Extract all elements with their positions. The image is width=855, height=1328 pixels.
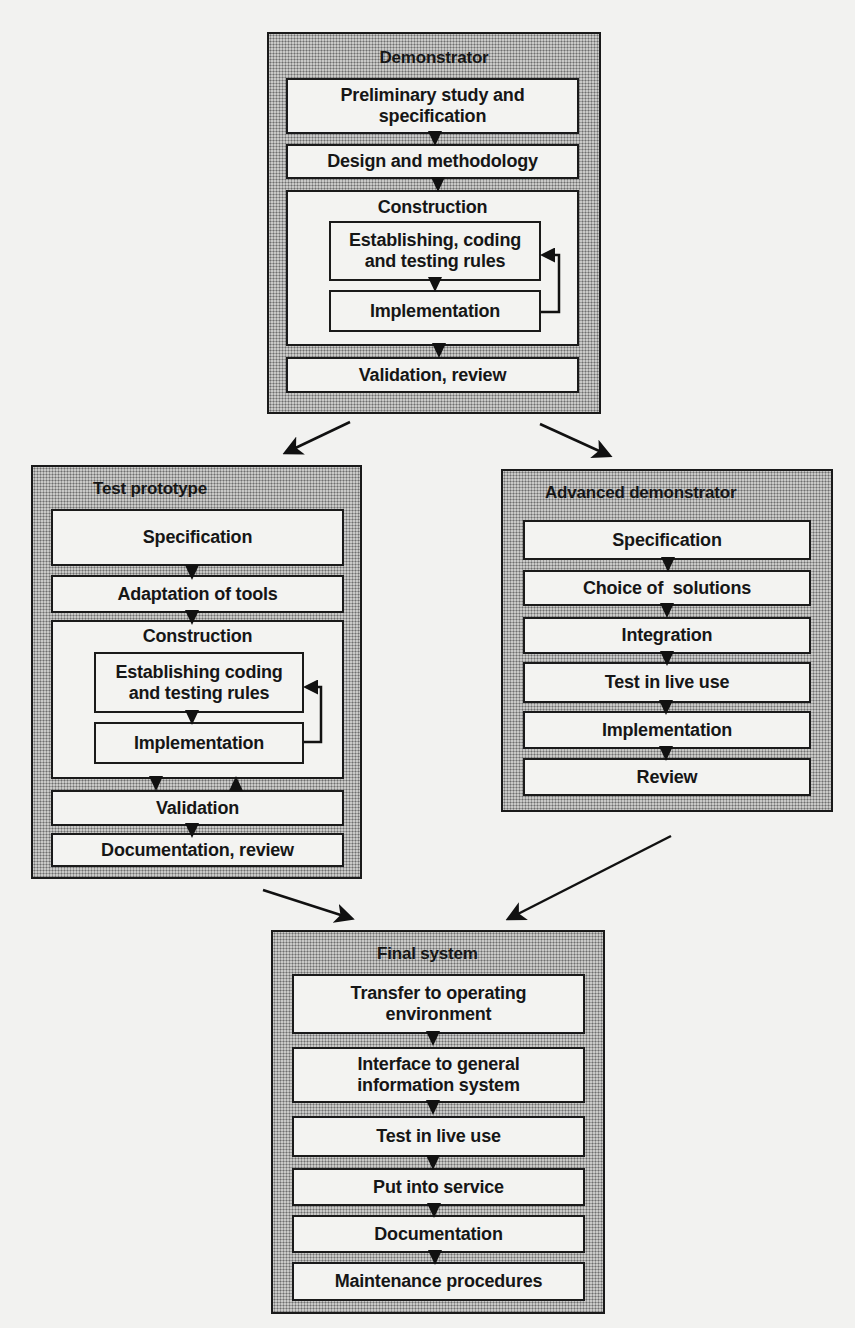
fs-step-maintenance: Maintenance procedures [292, 1262, 585, 1301]
ad-step-specification: Specification [523, 520, 811, 560]
arrow-up-icon [229, 776, 243, 791]
tp-step-documentation: Documentation, review [51, 833, 344, 867]
ad-step-test-live-use: Test in live use [523, 662, 811, 703]
arrow-down-icon [431, 177, 445, 192]
tp-substep-establishing: Establishing coding and testing rules [94, 652, 304, 713]
arrow-down-icon [185, 565, 199, 580]
arrow-down-icon [428, 131, 442, 146]
final-system-title: Final system [377, 944, 603, 964]
ad-step-integration: Integration [523, 617, 811, 654]
arrow-down-icon [432, 343, 446, 358]
test-prototype-title: Test prototype [93, 479, 360, 499]
demo-step-validation: Validation, review [286, 357, 579, 393]
arrow-down-icon [427, 1203, 441, 1218]
arrow-down-icon [660, 651, 674, 666]
tp-substep-implementation: Implementation [94, 722, 304, 764]
arrow-down-icon [659, 700, 673, 715]
demo-substep-establishing: Establishing, coding and testing rules [329, 221, 541, 281]
demo-step-preliminary-study: Preliminary study and specification [286, 78, 579, 134]
arrow-down-icon [426, 1155, 440, 1170]
arrow-down-icon [428, 277, 442, 292]
tp-step-adaptation: Adaptation of tools [51, 575, 344, 613]
arrow-down-icon [185, 710, 199, 725]
ad-step-review: Review [523, 758, 811, 796]
arrow-down-icon [661, 557, 675, 572]
tp-step-specification: Specification [51, 509, 344, 566]
fs-step-interface: Interface to general information system [292, 1047, 585, 1103]
arrow-down-icon [185, 610, 199, 625]
arrow-down-icon [660, 603, 674, 618]
ad-step-choice-of-solutions: Choice of solutions [523, 570, 811, 606]
fs-step-test-live-use: Test in live use [292, 1116, 585, 1157]
fs-step-transfer: Transfer to operating environment [292, 974, 585, 1034]
arrow-down-icon [149, 776, 163, 791]
arrow-down-icon [426, 1100, 440, 1115]
arrow-down-icon [185, 823, 199, 838]
fs-step-documentation: Documentation [292, 1215, 585, 1253]
tp-step-validation: Validation [51, 790, 344, 826]
ad-step-implementation: Implementation [523, 711, 811, 749]
arrow-down-icon [659, 746, 673, 761]
demonstrator-title: Demonstrator [269, 48, 599, 68]
demo-step-design: Design and methodology [286, 144, 579, 179]
arrow-down-icon [426, 1031, 440, 1046]
demo-substep-implementation: Implementation [329, 290, 541, 332]
fs-step-put-into-service: Put into service [292, 1168, 585, 1206]
advanced-demonstrator-title: Advanced demonstrator [545, 483, 831, 503]
arrow-down-icon [428, 1250, 442, 1265]
